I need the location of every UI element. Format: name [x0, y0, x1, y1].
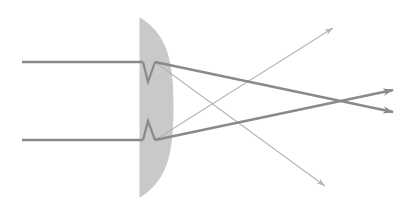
- lens-diagram-figure: Plano-convex lens refraction ray diagram: [0, 0, 410, 214]
- figure-background: [0, 0, 410, 214]
- lens-diagram-canvas: [0, 0, 410, 214]
